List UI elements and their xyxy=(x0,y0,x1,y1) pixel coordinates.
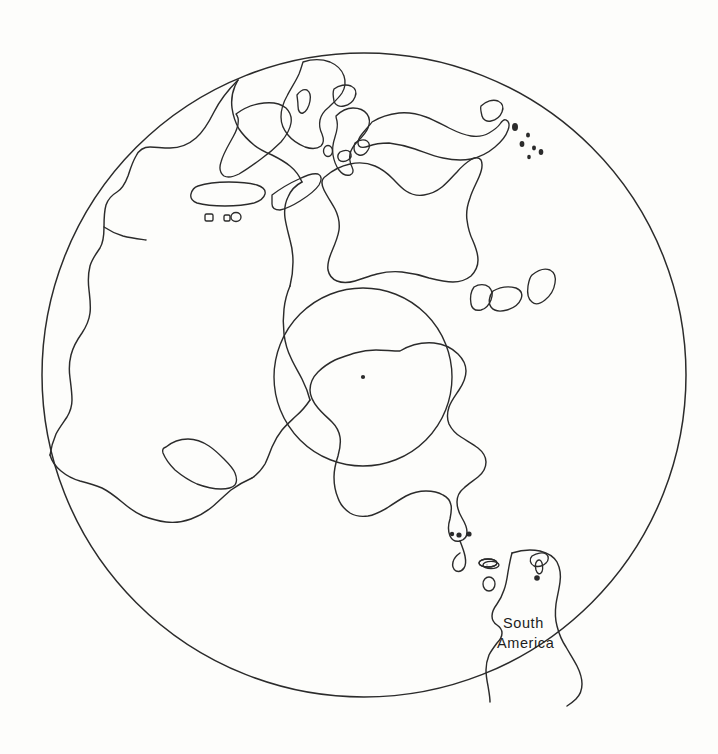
lesser-sunda-outline xyxy=(272,174,321,210)
juan-fernandez-islet xyxy=(483,577,495,591)
africa-east-upper xyxy=(283,286,310,400)
madagascar-outline xyxy=(163,439,237,489)
australia-outline xyxy=(322,158,482,283)
antarctic-peninsula xyxy=(453,541,466,571)
range-circle-center-dot xyxy=(361,375,365,379)
pacific-islet-dot-5 xyxy=(539,149,544,155)
sunda-islet-2 xyxy=(224,215,230,221)
sunda-islet-1 xyxy=(205,214,213,221)
pacific-islet-dot-4 xyxy=(532,146,536,151)
bismarck-islet xyxy=(481,100,503,121)
south-america-label-line1: South xyxy=(503,615,544,631)
south-orkney-dot-1 xyxy=(450,532,454,536)
south-georgia-dot xyxy=(534,575,540,581)
new-guinea-outline xyxy=(358,113,509,160)
africa-north-coast xyxy=(232,80,302,182)
south-shetland-islet xyxy=(466,531,471,536)
new-zealand-south-outline xyxy=(489,287,522,311)
falkland-islet-2 xyxy=(479,559,497,567)
pacific-islet-dot-2 xyxy=(526,132,530,137)
south-orkney-dot-2 xyxy=(456,532,461,537)
pacific-islet-dot-6 xyxy=(527,155,531,159)
pacific-islet-dot-1 xyxy=(512,123,518,131)
java-outline xyxy=(191,182,265,206)
antarctica-outline xyxy=(310,343,486,541)
philippines-islet-1 xyxy=(297,90,310,113)
sunda-islet-3 xyxy=(231,213,241,222)
gulf-of-guinea-coast xyxy=(104,227,146,240)
globe-map-svg: South America xyxy=(0,0,718,754)
globe-map-figure: South America xyxy=(0,0,718,754)
maluku-islet-3 xyxy=(324,146,333,157)
africa-coastline xyxy=(50,80,238,455)
south-america-label-line2: America xyxy=(497,635,555,651)
new-zealand-north-outline xyxy=(528,269,556,304)
earth-limb-circle xyxy=(42,53,686,697)
pacific-islet-dot-3 xyxy=(520,141,525,147)
sulawesi-outline xyxy=(333,108,370,175)
africa-ne-arabia xyxy=(285,182,302,286)
tasmania-outline xyxy=(471,285,492,311)
